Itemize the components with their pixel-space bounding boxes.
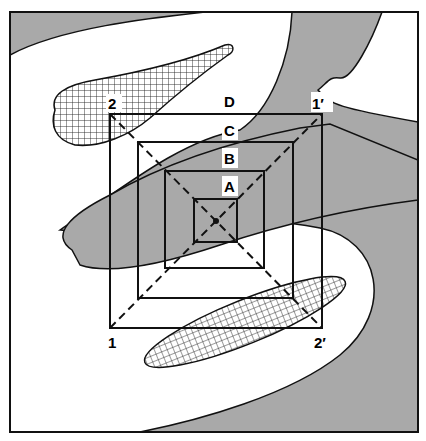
diagram-canvas: D C B A 2 1′ 1 2′ — [0, 0, 426, 441]
svg-text:D: D — [224, 93, 235, 110]
label-D: D — [224, 93, 235, 110]
svg-text:1′: 1′ — [312, 95, 324, 112]
svg-text:2: 2 — [108, 95, 116, 112]
hatched-region-upper — [53, 44, 233, 145]
corner-label-top-right: 1′ — [311, 92, 333, 112]
center-point — [213, 218, 219, 224]
corner-label-top-left: 2 — [106, 94, 122, 112]
label-A: A — [222, 176, 238, 196]
shaded-region-top-left — [10, 12, 205, 55]
corner-label-bottom-left: 1 — [108, 334, 116, 351]
svg-text:C: C — [224, 122, 235, 139]
hatched-region-lower — [137, 261, 354, 383]
corner-label-bottom-right: 2′ — [314, 334, 326, 351]
svg-text:B: B — [224, 150, 235, 167]
svg-text:A: A — [224, 178, 235, 195]
label-B: B — [222, 148, 238, 168]
label-C: C — [222, 120, 238, 140]
